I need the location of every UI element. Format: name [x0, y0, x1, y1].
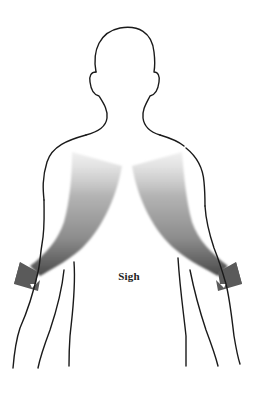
body-illustration [0, 0, 258, 393]
body-outline [13, 27, 240, 368]
right-arm-inner [190, 270, 218, 366]
left-arm-inner [38, 270, 64, 368]
sigh-label: Sigh [0, 270, 258, 282]
sigh-diagram: Sigh [0, 0, 258, 393]
head-outline [95, 27, 160, 135]
